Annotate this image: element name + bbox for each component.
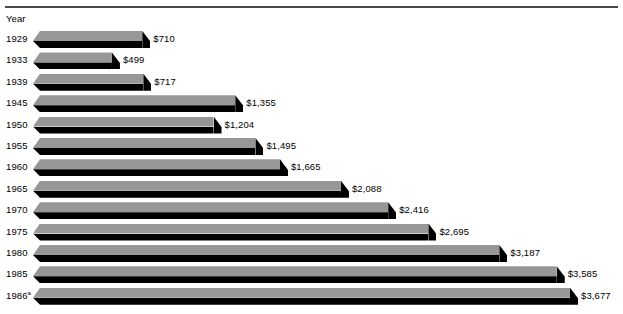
bar-end-cap <box>341 181 349 198</box>
bar-end-cap <box>112 52 120 69</box>
bar-end-cap <box>557 266 565 283</box>
bar-top-face <box>33 31 142 41</box>
footnote-marker: a <box>28 289 32 296</box>
bar-row: 1929$710 <box>0 30 623 51</box>
bar-value-label: $2,695 <box>439 226 469 237</box>
bar-category-label: 1980 <box>6 247 28 258</box>
bar-shadow-face <box>33 255 499 262</box>
bar-chart: Year 1929$7101933$4991939$7171945$1,3551… <box>0 0 623 314</box>
bar-value-label: $1,495 <box>266 140 296 151</box>
bar <box>33 74 143 93</box>
bar-end-cap <box>255 138 263 155</box>
bar-value-label: $1,665 <box>291 161 321 172</box>
bar-top-face <box>33 245 499 255</box>
bar <box>33 245 499 264</box>
bar-row: 1965$2,088 <box>0 180 623 201</box>
bar-row: 1939$717 <box>0 73 623 94</box>
bar-category-label: 1933 <box>6 54 28 65</box>
axis-caption-year: Year <box>6 13 26 25</box>
bar-category-label: 1955 <box>6 140 28 151</box>
bar <box>33 202 388 221</box>
bar-value-label: $2,416 <box>399 204 429 215</box>
bar-top-face <box>33 224 428 234</box>
header-rule <box>5 6 618 8</box>
bar-top-face <box>33 138 255 148</box>
bar-end-cap <box>280 159 288 176</box>
bar-shadow-face <box>33 169 280 176</box>
bar-value-label: $2,088 <box>352 183 382 194</box>
bar-category-label: 1986a <box>6 290 31 301</box>
bar <box>33 31 142 50</box>
bar-row: 1986a$3,677 <box>0 287 623 308</box>
bar-row: 1950$1,204 <box>0 116 623 137</box>
bar-shadow-face <box>33 191 341 198</box>
bar <box>33 52 112 71</box>
bar-shadow-face <box>33 212 388 219</box>
bar-shadow-face <box>33 84 143 91</box>
bar-value-label: $499 <box>123 54 145 65</box>
bar-shadow-face <box>33 148 255 155</box>
bar <box>33 288 570 307</box>
bar-shadow-face <box>33 276 557 283</box>
bar <box>33 95 235 114</box>
bar <box>33 138 255 157</box>
bar-value-label: $3,677 <box>581 290 611 301</box>
bar-top-face <box>33 181 341 191</box>
bar-value-label: $3,187 <box>510 247 540 258</box>
bar-row: 1980$3,187 <box>0 244 623 265</box>
bar-shadow-face <box>33 234 428 241</box>
bar-category-label: 1945 <box>6 97 28 108</box>
bar-row: 1970$2,416 <box>0 201 623 222</box>
bar <box>33 159 280 178</box>
bar-end-cap <box>570 288 578 305</box>
bar-top-face <box>33 266 557 276</box>
bar-end-cap <box>388 202 396 219</box>
bar-value-label: $1,355 <box>246 97 276 108</box>
bar-row: 1955$1,495 <box>0 137 623 158</box>
bar-value-label: $717 <box>154 76 176 87</box>
bar-end-cap <box>142 31 150 48</box>
bar <box>33 117 214 136</box>
bar-top-face <box>33 95 235 105</box>
bar-top-face <box>33 52 112 62</box>
bar-category-label: 1960 <box>6 161 28 172</box>
bar-row: 1945$1,355 <box>0 94 623 115</box>
bar-top-face <box>33 117 214 127</box>
bar-top-face <box>33 202 388 212</box>
bar-row: 1933$499 <box>0 51 623 72</box>
bar-category-label: 1929 <box>6 33 28 44</box>
bar-end-cap <box>428 224 436 241</box>
bar-row: 1985$3,585 <box>0 265 623 286</box>
bar-shadow-face <box>33 62 112 69</box>
bar-category-label: 1950 <box>6 119 28 130</box>
bar-category-label: 1965 <box>6 183 28 194</box>
bar-shadow-face <box>33 127 214 134</box>
bar-top-face <box>33 159 280 169</box>
bar-value-label: $3,585 <box>568 268 598 279</box>
bar-shadow-face <box>33 298 570 305</box>
bar-category-label: 1975 <box>6 226 28 237</box>
bar-end-cap <box>499 245 507 262</box>
bar <box>33 181 341 200</box>
bar-end-cap <box>143 74 151 91</box>
bar-category-label: 1939 <box>6 76 28 87</box>
bar-top-face <box>33 288 570 298</box>
bar <box>33 224 428 243</box>
bar-row: 1975$2,695 <box>0 223 623 244</box>
bar-end-cap <box>235 95 243 112</box>
bar-shadow-face <box>33 41 142 48</box>
bar-category-label: 1970 <box>6 204 28 215</box>
bar-row: 1960$1,665 <box>0 158 623 179</box>
bar-end-cap <box>214 117 222 134</box>
bar-shadow-face <box>33 105 235 112</box>
bar-value-label: $710 <box>153 33 175 44</box>
bar-top-face <box>33 74 143 84</box>
bar-value-label: $1,204 <box>225 119 255 130</box>
bar <box>33 266 557 285</box>
bar-rows-container: 1929$7101933$4991939$7171945$1,3551950$1… <box>0 30 623 308</box>
bar-category-label: 1985 <box>6 268 28 279</box>
